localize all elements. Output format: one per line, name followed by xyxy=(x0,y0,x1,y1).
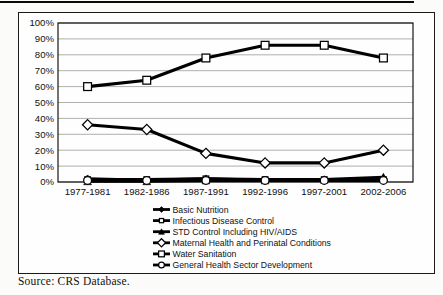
line-chart: 0%10%20%30%40%50%60%70%80%90%100%1977-19… xyxy=(19,13,434,273)
series-line-water-sanitation xyxy=(88,45,384,86)
y-tick-label: 60% xyxy=(35,81,55,92)
legend-item-maternal-health-and-perinatal-conditions: Maternal Health and Perinatal Conditions xyxy=(153,238,332,248)
source-note: Source: CRS Database. xyxy=(18,275,130,287)
legend-item-infectious-disease-control: Infectious Disease Control xyxy=(153,216,274,226)
chart-figure: 0%10%20%30%40%50%60%70%80%90%100%1977-19… xyxy=(18,12,435,274)
y-tick-label: 80% xyxy=(35,49,55,60)
legend-label: General Health Sector Development xyxy=(173,260,313,270)
legend: Basic NutritionInfectious Disease Contro… xyxy=(153,205,332,271)
legend-label: Basic Nutrition xyxy=(173,205,229,215)
x-tick-label: 1992-1996 xyxy=(242,186,288,197)
series-line-maternal-health-and-perinatal-conditions xyxy=(88,125,384,163)
series-lines xyxy=(88,45,384,181)
legend-label: STD Control Including HIV/AIDS xyxy=(173,227,298,237)
y-axis-labels: 0%10%20%30%40%50%60%70%80%90%100% xyxy=(29,17,54,187)
x-axis-labels: 1977-19811982-19861987-19911992-19961997… xyxy=(65,186,407,197)
legend-item-water-sanitation: Water Sanitation xyxy=(153,249,237,259)
x-tick-label: 2002-2006 xyxy=(360,186,406,197)
legend-item-std-control-including-hiv-aids: STD Control Including HIV/AIDS xyxy=(153,227,297,237)
top-rule xyxy=(0,1,414,3)
legend-label: Maternal Health and Perinatal Conditions xyxy=(173,238,332,248)
y-tick-label: 70% xyxy=(35,65,55,76)
y-tick-label: 40% xyxy=(35,113,55,124)
y-tick-label: 10% xyxy=(35,161,55,172)
legend-label: Infectious Disease Control xyxy=(173,216,274,226)
y-tick-label: 50% xyxy=(35,97,55,108)
y-tick-label: 100% xyxy=(29,17,54,28)
y-tick-label: 20% xyxy=(35,145,55,156)
y-tick-label: 30% xyxy=(35,129,55,140)
legend-item-general-health-sector-development: General Health Sector Development xyxy=(153,260,313,270)
y-tick-label: 0% xyxy=(40,176,54,187)
page-background: { "page": { "source_note": "Source: CRS … xyxy=(0,0,443,295)
x-tick-label: 1997-2001 xyxy=(301,186,347,197)
x-tick-label: 1977-1981 xyxy=(65,186,111,197)
x-tick-label: 1982-1986 xyxy=(124,186,170,197)
series-markers xyxy=(82,41,388,184)
y-tick-label: 90% xyxy=(35,33,55,44)
x-tick-label: 1987-1991 xyxy=(183,186,229,197)
legend-item-basic-nutrition: Basic Nutrition xyxy=(153,205,229,215)
legend-label: Water Sanitation xyxy=(173,249,237,259)
